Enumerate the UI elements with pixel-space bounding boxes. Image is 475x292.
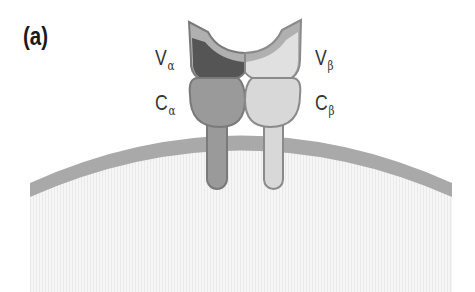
beta-constant-domain [245, 78, 300, 127]
panel-label: (a) [23, 22, 48, 51]
tcr-diagram [0, 0, 475, 292]
alpha-constant-domain [190, 78, 245, 127]
label-c-beta: Cβ [315, 90, 335, 118]
label-v-alpha: Vα [155, 45, 175, 73]
label-c-alpha-sub: α [169, 103, 176, 118]
label-c-beta-sub: β [329, 103, 335, 118]
label-v-beta-main: V [315, 45, 327, 70]
label-v-beta-sub: β [328, 58, 334, 73]
label-c-alpha: Cα [155, 90, 176, 118]
label-c-beta-main: C [315, 90, 328, 115]
label-c-alpha-main: C [155, 90, 168, 115]
label-v-alpha-sub: α [168, 58, 175, 73]
label-v-beta: Vβ [315, 45, 334, 73]
label-v-alpha-main: V [155, 45, 167, 70]
